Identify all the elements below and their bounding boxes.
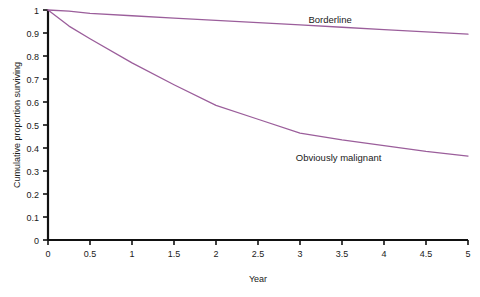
x-tick-label: 4 [381,249,386,259]
series-line [48,10,468,34]
y-axis-title: Cumulative proportion surviving [12,62,22,188]
series-label: Obviously malignant [296,152,382,163]
y-tick-label: 0.6 [26,98,39,108]
x-axis-title: Year [249,274,267,284]
x-tick-label: 1.5 [168,249,181,259]
x-tick-label: 1 [129,249,134,259]
series-lines [48,10,468,156]
chart-canvas: 00.10.20.30.40.50.60.70.80.91 00.511.522… [0,0,480,297]
x-tick-label: 2.5 [252,249,265,259]
x-tick-label: 3.5 [336,249,349,259]
y-tick-label: 0.4 [26,144,39,154]
x-tick-label: 5 [465,249,470,259]
y-tick-label: 1 [34,6,39,16]
series-label: Borderline [308,14,351,25]
x-tick-label: 0 [45,249,50,259]
y-tick-label: 0.7 [26,75,39,85]
x-axis-ticks: 00.511.522.533.544.55 [45,240,470,259]
x-tick-label: 3 [297,249,302,259]
y-tick-label: 0.2 [26,190,39,200]
x-tick-label: 0.5 [84,249,97,259]
y-tick-label: 0.3 [26,167,39,177]
y-axis-ticks: 00.10.20.30.40.50.60.70.80.91 [26,6,48,246]
y-tick-label: 0.5 [26,121,39,131]
x-tick-label: 2 [213,249,218,259]
y-tick-label: 0.1 [26,213,39,223]
series-line [48,10,468,156]
series-annotations: BorderlineObviously malignant [296,14,382,163]
y-tick-label: 0.8 [26,52,39,62]
survival-curve-chart: 00.10.20.30.40.50.60.70.80.91 00.511.522… [0,0,480,297]
y-tick-label: 0 [34,236,39,246]
y-tick-label: 0.9 [26,29,39,39]
x-tick-label: 4.5 [420,249,433,259]
